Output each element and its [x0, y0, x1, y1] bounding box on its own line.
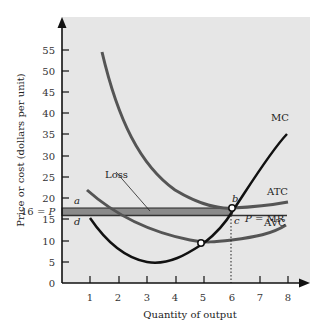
y-tick-30: 30: [42, 151, 55, 162]
atc-label: ATC: [266, 186, 288, 197]
price-16-label: 16 = P: [21, 206, 55, 217]
x-tick-8: 8: [285, 292, 291, 303]
y-tick-labels: 55 50 45 40 35 30 25 20 15 10 5 0: [42, 45, 55, 289]
point-c-label: c: [234, 215, 240, 226]
p-mr-label: P = MR: [244, 213, 285, 224]
point-d-label: d: [74, 216, 80, 227]
point-a-label: a: [74, 195, 80, 206]
y-tick-25: 25: [42, 172, 55, 183]
x-tick-5: 5: [200, 292, 206, 303]
y-tick-5: 5: [49, 257, 55, 268]
point-b: [229, 205, 235, 211]
cost-curves-chart: 55 50 45 40 35 30 25 20 15 10 5 0 16 = P…: [0, 0, 324, 328]
y-tick-0: 0: [49, 278, 55, 289]
y-tick-55: 55: [42, 45, 55, 56]
y-tick-10: 10: [42, 236, 55, 247]
mc-label: MC: [271, 112, 289, 123]
y-tick-45: 45: [42, 87, 55, 98]
y-tick-50: 50: [42, 66, 55, 77]
loss-label: Loss: [105, 169, 128, 180]
x-tick-2: 2: [115, 292, 121, 303]
loss-area: [62, 208, 232, 216]
y-tick-20: 20: [42, 193, 55, 204]
x-tick-4: 4: [172, 292, 178, 303]
x-tick-1: 1: [87, 292, 93, 303]
x-tick-6: 6: [229, 292, 235, 303]
x-tick-labels: 1 2 3 4 5 6 7 8: [87, 292, 291, 303]
x-axis-title: Quantity of output: [143, 309, 236, 320]
y-axis-title: Price or cost (dollars per unit): [15, 73, 26, 226]
y-tick-35: 35: [42, 129, 55, 140]
y-tick-40: 40: [42, 108, 55, 119]
x-tick-3: 3: [144, 292, 150, 303]
x-tick-7: 7: [257, 292, 263, 303]
point-b-label: b: [232, 193, 238, 204]
point-mc-avc-min: [198, 240, 204, 246]
